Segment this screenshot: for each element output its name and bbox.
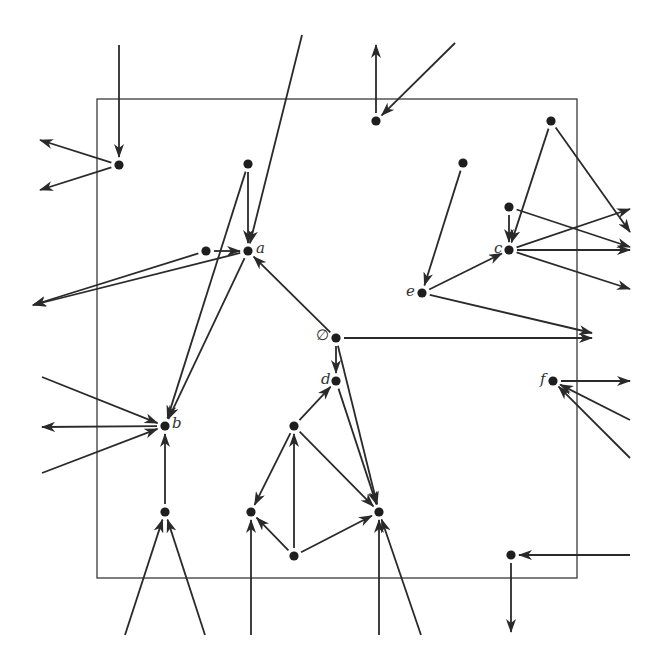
node-label-e: e [406, 284, 415, 299]
edge-arrow [556, 128, 630, 232]
edge-arrow [40, 167, 111, 190]
graph-node [289, 551, 298, 560]
edge-arrow [560, 385, 630, 420]
edge-arrow [167, 520, 205, 635]
node-label-f: f [540, 372, 546, 387]
edge-arrow [167, 172, 245, 419]
graph-node [201, 246, 210, 255]
graph-node-c [504, 245, 513, 254]
edge-arrow [424, 171, 460, 286]
edge-arrow [382, 520, 421, 635]
edge-arrow [255, 433, 291, 505]
graph-node-empty [331, 333, 340, 342]
graph-node [289, 421, 298, 430]
graph-node-e [417, 288, 426, 297]
edge-arrow [42, 377, 158, 423]
edge-arrow [559, 387, 630, 458]
edge-arrow [42, 426, 157, 427]
node-label-empty-set: ∅ [316, 328, 329, 343]
graph-node [458, 158, 467, 167]
graph-node-a [243, 246, 252, 255]
edge-arrow [429, 254, 502, 290]
graph-node [114, 160, 123, 169]
edge-arrow [33, 253, 240, 305]
node-label-b: b [172, 416, 182, 431]
edge-arrow [42, 429, 158, 473]
node-label-a: a [256, 241, 265, 256]
graph-node [371, 116, 380, 125]
graph-node [246, 507, 255, 516]
edge-arrow [299, 387, 330, 420]
node-label-d: d [321, 372, 331, 387]
graph-node [506, 550, 515, 559]
edge-arrow [517, 252, 630, 289]
graph-node [374, 507, 383, 516]
edge-arrow [257, 518, 289, 551]
edge-arrow [168, 258, 244, 419]
edge-arrow [430, 295, 592, 333]
edge-arrow [125, 520, 163, 635]
graph-node [160, 507, 169, 516]
edge-arrow [511, 129, 548, 243]
edge-arrow [254, 257, 331, 333]
edge-arrow [33, 253, 198, 305]
graph-node [243, 159, 252, 168]
graph-node-f [548, 376, 557, 385]
edge-arrow [250, 35, 302, 243]
edge-arrow [40, 140, 111, 163]
graph-node [546, 116, 555, 125]
node-label-c: c [494, 241, 502, 256]
edge-arrow [338, 389, 376, 505]
graph-node-d [331, 376, 340, 385]
graph-node [504, 202, 513, 211]
edge-arrow [382, 43, 455, 115]
graph-diagram [0, 0, 666, 665]
edge-arrow [338, 346, 377, 504]
edges-group [33, 35, 630, 635]
edge-arrow [301, 516, 372, 553]
graph-node-b [160, 421, 169, 430]
